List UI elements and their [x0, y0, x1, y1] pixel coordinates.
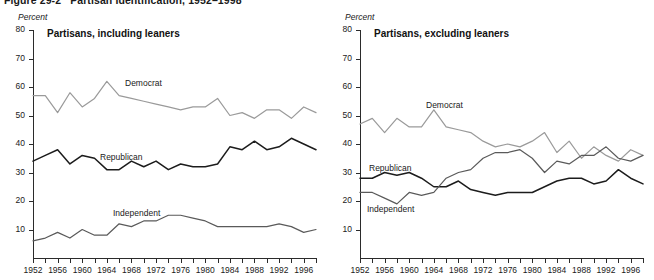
x-axis-tick-label: 1964: [94, 265, 120, 275]
y-axis-tick-label: 20: [3, 195, 25, 205]
x-axis-tick-label: 1972: [143, 265, 169, 275]
series-line-democrat: [360, 110, 643, 161]
chart-panel-excluding-leaners: Percent Partisans, excluding leaners 807…: [327, 8, 654, 280]
x-axis-tick-label: 1968: [445, 265, 471, 275]
y-axis-tick-label: 60: [330, 81, 352, 91]
x-axis-tick-label: 1972: [470, 265, 496, 275]
series-line-independent: [360, 147, 643, 204]
series-label-democrat: Democrat: [426, 100, 463, 110]
y-axis-tick-label: 60: [3, 81, 25, 91]
x-axis-tick-label: 1960: [69, 265, 95, 275]
x-axis-tick-label: 1980: [519, 265, 545, 275]
y-axis-tick-label: 40: [330, 138, 352, 148]
series-line-democrat: [33, 81, 316, 118]
series-line-independent: [33, 215, 316, 241]
series-label-independent: Independent: [367, 204, 414, 214]
y-axis-tick-label: 80: [330, 24, 352, 34]
figure-title: Partisan Identification, 1952–1998: [70, 0, 241, 6]
y-axis-tick-label: 30: [330, 167, 352, 177]
y-axis-tick-label: 10: [3, 224, 25, 234]
x-axis-tick-label: 1956: [372, 265, 398, 275]
y-axis-tick-label: 80: [3, 24, 25, 34]
x-axis-tick-label: 1980: [192, 265, 218, 275]
figure-caption: Figure 29-2Partisan Identification, 1952…: [4, 0, 242, 6]
x-axis-tick-label: 1976: [168, 265, 194, 275]
y-axis-tick-label: 40: [3, 138, 25, 148]
x-axis-tick-label: 1988: [568, 265, 594, 275]
y-axis-tick-label: 70: [330, 53, 352, 63]
y-axis-tick-label: 10: [330, 224, 352, 234]
figure-number: Figure 29-2: [4, 0, 61, 6]
y-axis-tick-label: 70: [3, 53, 25, 63]
x-axis-tick-label: 1984: [544, 265, 570, 275]
x-axis-tick-label: 1976: [495, 265, 521, 275]
x-axis-tick-label: 1992: [593, 265, 619, 275]
series-label-republican: Republican: [369, 163, 412, 173]
plot-area-right: 8070605040302010195219561960196419681972…: [327, 8, 654, 280]
series-label-independent: Independent: [113, 208, 160, 218]
series-line-republican: [360, 170, 643, 196]
x-axis-tick-label: 1960: [396, 265, 422, 275]
series-label-republican: Republican: [100, 152, 143, 162]
series-line-republican: [33, 138, 316, 169]
x-axis-tick-label: 1996: [618, 265, 644, 275]
y-axis-tick-label: 20: [330, 195, 352, 205]
x-axis-tick-label: 1952: [20, 265, 46, 275]
figure-container: Figure 29-2Partisan Identification, 1952…: [0, 0, 654, 280]
y-axis-tick-label: 50: [330, 110, 352, 120]
x-axis-tick-label: 1964: [421, 265, 447, 275]
x-axis-tick-label: 1992: [266, 265, 292, 275]
x-axis-tick-label: 1968: [118, 265, 144, 275]
x-axis-tick-label: 1952: [347, 265, 373, 275]
y-axis-tick-label: 50: [3, 110, 25, 120]
chart-panel-including-leaners: Percent Partisans, including leaners 807…: [0, 8, 327, 280]
x-axis-tick-label: 1956: [45, 265, 71, 275]
x-axis-tick-label: 1984: [217, 265, 243, 275]
x-axis-tick-label: 1996: [291, 265, 317, 275]
chart-svg: [0, 8, 327, 280]
x-axis-tick-label: 1988: [241, 265, 267, 275]
chart-svg: [327, 8, 654, 280]
plot-area-left: 8070605040302010195219561960196419681972…: [0, 8, 327, 280]
series-label-democrat: Democrat: [125, 78, 162, 88]
y-axis-tick-label: 30: [3, 167, 25, 177]
